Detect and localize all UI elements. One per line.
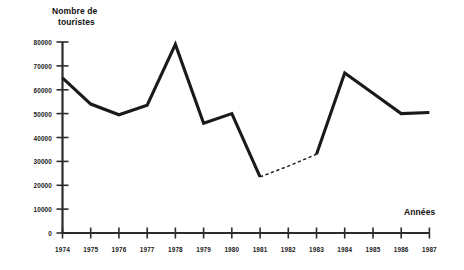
data-line-segment-solid-early [63,44,261,177]
x-axis-tick-label: 1982 [281,246,296,253]
x-axis-tick-label: 1987 [422,246,437,253]
x-axis-tick-label: 1985 [366,246,381,253]
y-axis-tick-label: 80000 [0,39,52,46]
x-axis-tick-label: 1978 [168,246,183,253]
y-axis-tick-label: 50000 [0,110,52,117]
y-axis-title-line2: touristes [58,17,95,28]
y-axis-tick-label: 70000 [0,62,52,69]
y-axis-tick-label: 30000 [0,158,52,165]
y-axis-title: Nombre detouristes [52,6,97,29]
data-line-segment-dashed-estimate [260,154,316,177]
x-axis-tick-label: 1976 [112,246,127,253]
x-axis-tick-label: 1975 [83,246,98,253]
x-axis-title: Années [404,207,435,218]
x-axis-tick-label: 1979 [196,246,211,253]
x-axis-tick-label: 1983 [309,246,324,253]
y-axis-tick-label: 60000 [0,86,52,93]
y-axis-tick-label: 10000 [0,206,52,213]
x-axis-tick-label: 1974 [55,246,70,253]
y-axis-tick-label: 40000 [0,134,52,141]
line-chart-plot [0,0,464,270]
x-axis-tick-label: 1977 [140,246,155,253]
chart-container: Nombre detouristes Années 01000020000300… [0,0,464,270]
x-axis-tick-label: 1981 [253,246,268,253]
x-axis-tick-label: 1986 [394,246,409,253]
x-axis-tick-label: 1980 [224,246,239,253]
y-axis-tick-label: 20000 [0,182,52,189]
y-axis-title-line1: Nombre de [52,6,97,16]
data-line-segment-solid-late [317,73,430,154]
y-axis-tick-label: 0 [0,230,52,237]
x-axis-tick-label: 1984 [337,246,352,253]
